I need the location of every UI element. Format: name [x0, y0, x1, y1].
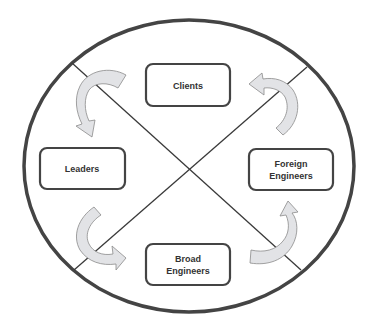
node-clients: Clients: [146, 64, 230, 106]
node-label: Foreign: [275, 159, 308, 169]
curved-arrow-icon: [250, 201, 298, 264]
node-label: Broad: [175, 254, 201, 264]
cycle-diagram: Clients Leaders Foreign Engineers Broad …: [0, 0, 377, 330]
node-foreign-engineers: Foreign Engineers: [249, 149, 333, 190]
curved-arrow-icon: [76, 70, 126, 137]
node-leaders: Leaders: [40, 148, 125, 189]
node-broad-engineers: Broad Engineers: [146, 244, 230, 285]
node-label: Engineers: [166, 266, 210, 276]
node-label: Engineers: [269, 171, 313, 181]
node-label: Clients: [173, 81, 203, 91]
curved-arrow-icon: [249, 73, 298, 135]
node-label: Leaders: [65, 164, 100, 174]
